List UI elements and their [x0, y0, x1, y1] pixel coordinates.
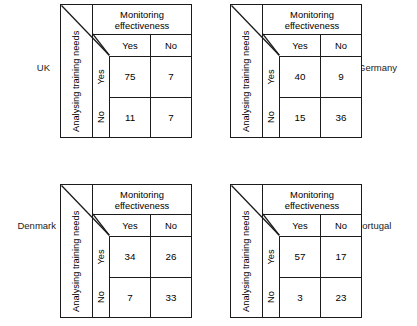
- cell-no-no: 7: [151, 97, 191, 137]
- row-category-yes: Yes: [263, 56, 280, 97]
- cell-no-no: 36: [321, 97, 361, 137]
- cell-no-no: 33: [151, 277, 191, 317]
- row-header-label: Analysing training needs: [61, 209, 93, 313]
- column-header-title: Monitoring effectiveness: [263, 5, 361, 35]
- column-head-no: No: [321, 34, 361, 56]
- cell-yes-no: 17: [321, 236, 361, 277]
- table-row: 11 7: [110, 97, 191, 137]
- column-header-title: Monitoring effectiveness: [263, 185, 361, 215]
- panel-uk: UK Analysing training needs Yes No Monit…: [0, 0, 208, 163]
- panel-denmark: Denmark Analysing training needs Yes No …: [0, 163, 208, 326]
- crosstab-table-portugal: Analysing training needs Yes No Monitori…: [230, 184, 362, 318]
- column-header-title: Monitoring effectiveness: [93, 5, 191, 35]
- cell-yes-yes: 34: [110, 236, 151, 277]
- row-header-label: Analysing training needs: [231, 209, 263, 313]
- table-row: 75 7: [110, 56, 191, 98]
- crosstab-table-germany: Analysing training needs Yes No Monitori…: [230, 4, 362, 138]
- column-head-no: No: [151, 34, 191, 56]
- cell-yes-yes: 57: [280, 236, 321, 277]
- crosstab-table-denmark: Analysing training needs Yes No Monitori…: [60, 184, 192, 318]
- cell-no-yes: 11: [110, 97, 151, 137]
- cell-yes-yes: 75: [110, 56, 151, 97]
- table-row: 15 36: [280, 97, 361, 137]
- cell-no-yes: 7: [110, 277, 151, 317]
- country-label-denmark: Denmark: [17, 220, 56, 231]
- panel-portugal: Portugal Analysing training needs Yes No…: [208, 163, 416, 326]
- crosstab-figure: UK Analysing training needs Yes No Monit…: [0, 0, 417, 326]
- table-row: 7 33: [110, 277, 191, 317]
- row-header-label: Analysing training needs: [61, 29, 93, 133]
- column-head-no: No: [151, 214, 191, 236]
- row-category-no: No: [263, 97, 280, 137]
- row-header-stub: Analysing training needs: [61, 185, 93, 317]
- row-category-no: No: [263, 277, 280, 317]
- row-header-stub: Analysing training needs: [61, 5, 93, 137]
- cell-no-yes: 3: [280, 277, 321, 317]
- row-header-label: Analysing training needs: [231, 29, 263, 133]
- row-header-stub: Analysing training needs: [231, 5, 263, 137]
- column-heads: Yes No: [110, 34, 191, 57]
- crosstab-body: 40 9 15 36: [280, 56, 361, 137]
- cell-yes-no: 26: [151, 236, 191, 277]
- cell-no-no: 23: [321, 277, 361, 317]
- cell-yes-no: 9: [321, 56, 361, 97]
- column-head-yes: Yes: [280, 34, 321, 56]
- table-row: 34 26: [110, 236, 191, 278]
- column-header-title: Monitoring effectiveness: [93, 185, 191, 215]
- country-label-uk: UK: [37, 62, 50, 73]
- table-row: 3 23: [280, 277, 361, 317]
- column-heads: Yes No: [280, 214, 361, 237]
- row-header-stub: Analysing training needs: [231, 185, 263, 317]
- panel-germany: Germany Analysing training needs Yes No …: [208, 0, 416, 163]
- row-category-no: No: [93, 277, 110, 317]
- column-heads: Yes No: [110, 214, 191, 237]
- crosstab-table-uk: Analysing training needs Yes No Monitori…: [60, 4, 192, 138]
- column-heads: Yes No: [280, 34, 361, 57]
- crosstab-body: 57 17 3 23: [280, 236, 361, 317]
- crosstab-body: 34 26 7 33: [110, 236, 191, 317]
- column-head-no: No: [321, 214, 361, 236]
- cell-yes-yes: 40: [280, 56, 321, 97]
- row-category-no: No: [93, 97, 110, 137]
- cell-yes-no: 7: [151, 56, 191, 97]
- table-row: 40 9: [280, 56, 361, 98]
- column-head-yes: Yes: [280, 214, 321, 236]
- row-category-yes: Yes: [263, 236, 280, 277]
- row-category-yes: Yes: [93, 236, 110, 277]
- column-head-yes: Yes: [110, 34, 151, 56]
- row-category-yes: Yes: [93, 56, 110, 97]
- cell-no-yes: 15: [280, 97, 321, 137]
- column-head-yes: Yes: [110, 214, 151, 236]
- table-row: 57 17: [280, 236, 361, 278]
- country-label-germany: Germany: [358, 62, 397, 73]
- crosstab-body: 75 7 11 7: [110, 56, 191, 137]
